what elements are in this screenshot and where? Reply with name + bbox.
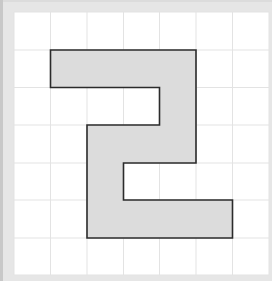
grid-diagram: [0, 0, 272, 281]
